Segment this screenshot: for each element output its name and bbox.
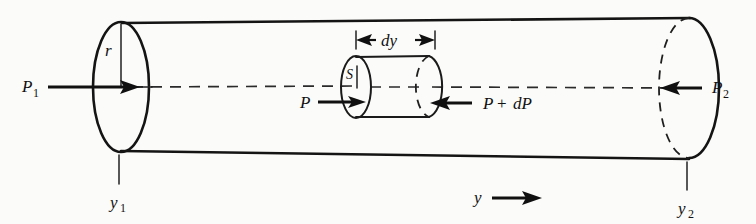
p2-label-subscript: 2 bbox=[723, 87, 729, 101]
y1-label-subscript: 1 bbox=[120, 201, 126, 215]
y1-label: y bbox=[108, 193, 118, 212]
element-pdp-label-p: P bbox=[482, 94, 493, 113]
cylinder-bottom-edge bbox=[121, 151, 689, 159]
y-axis-label: y bbox=[472, 188, 482, 207]
pipe-pressure-diagram: r P 1 P 2 S bbox=[0, 0, 756, 224]
cylinder-top-edge bbox=[122, 18, 690, 23]
element-p-label: P bbox=[299, 93, 310, 112]
p1-label-subscript: 1 bbox=[33, 86, 39, 100]
element-left-face bbox=[341, 56, 371, 118]
figure-container: r P 1 P 2 S bbox=[0, 0, 756, 224]
area-label: S bbox=[346, 67, 353, 82]
y2-label: y bbox=[676, 199, 686, 218]
y2-label-subscript: 2 bbox=[688, 207, 694, 221]
element-pdp-label-dp: dP bbox=[513, 94, 532, 113]
p1-label: P bbox=[21, 77, 32, 96]
element-top-edge bbox=[356, 56, 429, 57]
p2-label: P bbox=[711, 78, 722, 97]
center-axis-left-segment bbox=[132, 86, 352, 87]
center-axis-right-segment bbox=[432, 87, 690, 88]
radius-label: r bbox=[105, 41, 112, 60]
element-pdp-plus-sign: + bbox=[497, 94, 507, 113]
dy-label: dy bbox=[381, 31, 398, 50]
